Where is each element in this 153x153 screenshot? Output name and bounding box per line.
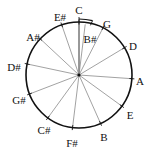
- note-label-d-sharp: D#: [7, 61, 21, 73]
- note-label-a-sharp: A#: [26, 31, 40, 43]
- note-label-a: A: [136, 75, 144, 87]
- tick-mark: [25, 63, 30, 64]
- radial-line-a: [79, 75, 132, 79]
- note-label-c: C: [75, 4, 82, 16]
- radial-line-e: [79, 75, 122, 106]
- tick-mark: [72, 125, 73, 130]
- radial-line-b: [79, 75, 101, 123]
- note-label-c-sharp: C#: [38, 124, 51, 136]
- radial-line-d-sharp: [27, 64, 79, 75]
- note-label-e-sharp: E#: [54, 11, 67, 23]
- circle-of-fifths-diagram: CB#GDAEBF#C#G#D#A#E#: [0, 0, 153, 153]
- note-label-b: B: [100, 131, 107, 143]
- note-label-f-sharp: F#: [66, 137, 78, 149]
- center-point: [77, 73, 80, 76]
- note-label-b-sharp: B#: [84, 33, 97, 45]
- radial-lines: [27, 17, 132, 128]
- note-label-d: D: [129, 40, 137, 52]
- radial-line-g-sharp: [30, 75, 79, 94]
- note-label-g-sharp: G#: [12, 94, 26, 106]
- note-label-g: G: [103, 18, 111, 30]
- comma-arc: [79, 19, 93, 21]
- note-label-e: E: [127, 109, 134, 121]
